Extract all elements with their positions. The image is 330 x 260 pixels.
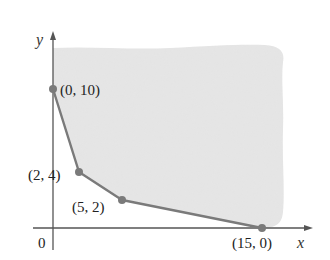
vertex-label: (2, 4) — [28, 167, 61, 184]
vertex-label: (5, 2) — [72, 199, 105, 216]
vertex-5-2 — [118, 196, 126, 204]
origin-label: 0 — [38, 235, 46, 251]
vertex-0-10 — [49, 85, 57, 93]
vertex-2-4 — [75, 168, 83, 176]
vertex-label: (15, 0) — [232, 235, 272, 252]
x-axis-arrow-icon — [304, 225, 313, 231]
vertex-label: (0, 10) — [60, 82, 100, 99]
feasible-region-diagram: y x 0 (0, 10) (2, 4) (5, 2) (15, 0) — [0, 0, 330, 260]
vertex-15-0 — [258, 224, 266, 232]
y-axis-arrow-icon — [50, 31, 56, 40]
y-axis-label: y — [34, 31, 44, 49]
x-axis-label: x — [296, 234, 304, 251]
